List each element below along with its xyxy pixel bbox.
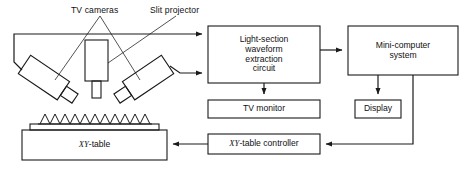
- left-tv-camera: [18, 55, 81, 107]
- annotation-tv-cameras: TV cameras: [71, 6, 118, 16]
- light-section-line4: circuit: [240, 64, 289, 74]
- leader-slit-projector: [108, 16, 176, 63]
- leader-tv-cameras-right: [100, 16, 140, 80]
- leader-tv-cameras-left: [55, 16, 100, 80]
- wire-right-camera-to-circuit: [170, 66, 202, 73]
- label-light-section-circuit: Light-section waveform extraction circui…: [208, 26, 320, 83]
- label-tv-monitor: TV monitor: [208, 100, 320, 118]
- label-display: Display: [355, 100, 401, 118]
- label-mini-computer-system: Mini-computer system: [348, 26, 458, 75]
- label-xy-table-controller: XY-table controller: [208, 134, 320, 154]
- xy-table-suffix: -table: [89, 139, 111, 149]
- right-tv-camera: [111, 55, 174, 107]
- mini-computer-line2: system: [376, 51, 430, 61]
- slit-projector-body: [85, 40, 108, 98]
- xy-controller-prefix: XY: [229, 138, 239, 148]
- figure-canvas: TV cameras Slit projector Light-section …: [0, 0, 475, 173]
- xy-table-prefix: XY: [79, 139, 89, 149]
- xy-controller-suffix: -table controller: [239, 138, 298, 148]
- sawtooth-workpiece: [38, 114, 152, 124]
- annotation-slit-projector: Slit projector: [150, 6, 199, 16]
- label-xy-table: XY-table: [22, 130, 167, 160]
